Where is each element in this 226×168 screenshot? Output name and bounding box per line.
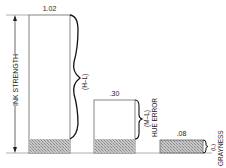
ink-strength-diagram: INK STRENGTH 1.02 (H–L) .30 (M–L) HUE ER… — [0, 0, 226, 168]
bracket-label: (H–L) — [81, 74, 89, 90]
brace-icon — [135, 100, 142, 139]
hatched-base — [94, 139, 134, 153]
bracket-label: (L) — [210, 144, 216, 151]
bar-medium — [94, 100, 135, 153]
bar-high — [29, 15, 70, 153]
bracket-label: (M–L) — [143, 110, 151, 127]
bar-value-label: .08 — [177, 130, 187, 137]
bar-value-label: .30 — [110, 90, 120, 97]
arrow-up-icon — [13, 15, 17, 21]
axis-label: INK STRENGTH — [12, 54, 19, 106]
arrow-down-icon — [13, 147, 17, 153]
category-label: HUE ERROR — [151, 98, 158, 137]
brace-icon — [203, 140, 208, 153]
category-label: GRAYNESS — [217, 130, 224, 166]
bar-value-label: 1.02 — [43, 5, 57, 12]
bar-low — [160, 140, 203, 153]
brace-icon — [70, 15, 80, 139]
hatched-base — [29, 139, 69, 153]
